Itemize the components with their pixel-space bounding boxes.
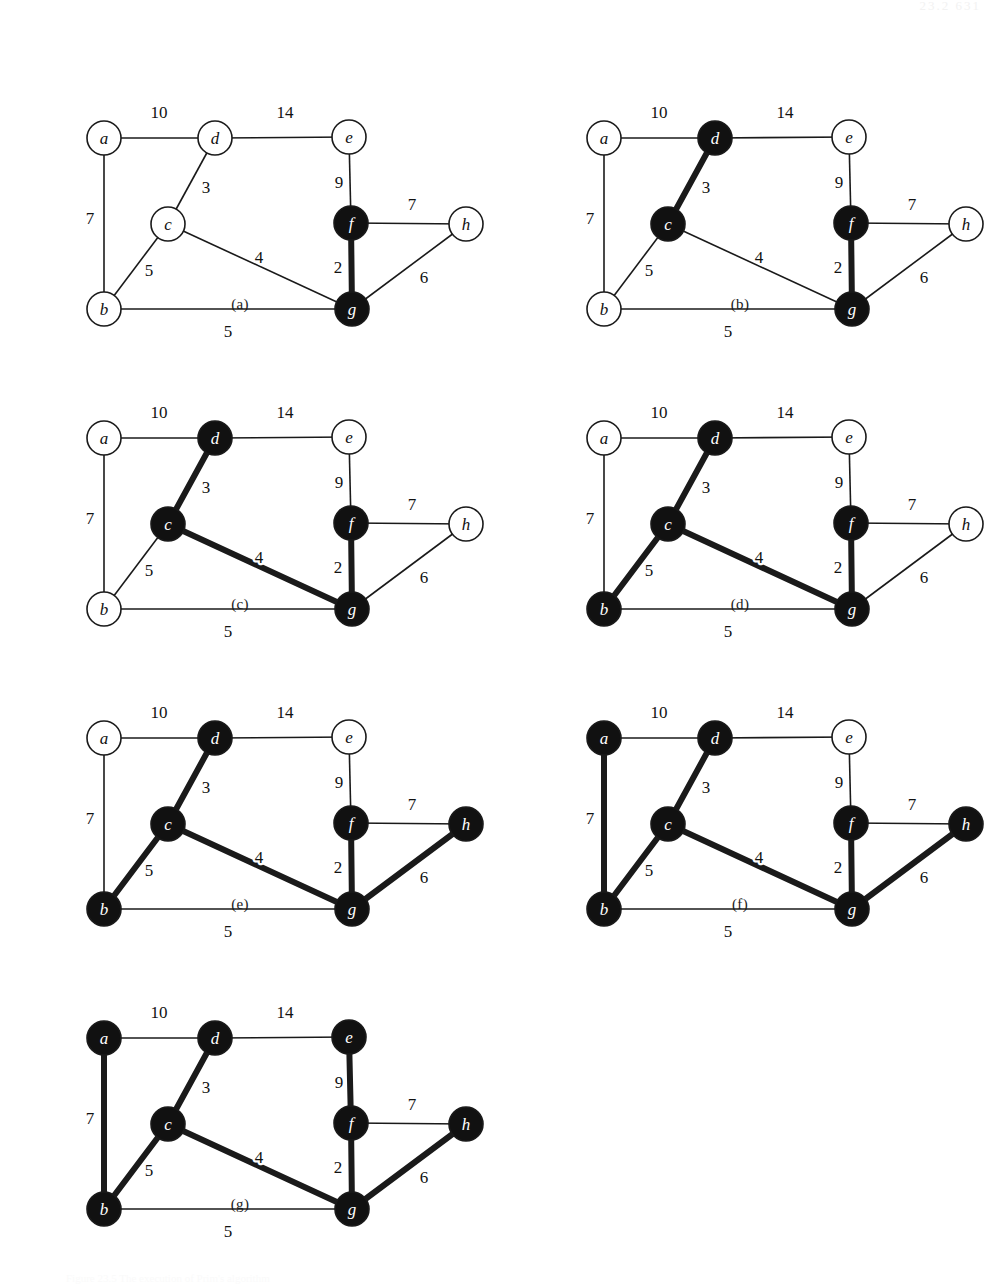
graph-node-label-g: g [848,300,857,319]
graph-edge-d-e [715,737,849,738]
graph-edge-g-h [352,1124,466,1209]
edge-weight-b-g: 5 [724,622,733,641]
edge-weight-b-g: 5 [224,322,233,341]
graph-node-label-b: b [100,600,109,619]
graph-node-label-h: h [462,515,471,534]
edge-weight-f-h: 7 [408,495,417,514]
panel-caption-d: (d) [710,596,770,613]
edge-weight-f-h: 7 [408,795,417,814]
graph-node-label-c: c [664,215,672,234]
graph-node-label-d: d [711,729,720,748]
edge-weight-f-g: 2 [834,558,843,577]
graph-edge-g-h [852,824,966,909]
edge-weight-c-d: 3 [202,178,211,197]
graph-node-label-d: d [711,129,720,148]
panel-caption-b: (b) [710,296,770,313]
edge-weight-a-b: 7 [86,509,95,528]
panel-caption-e: (e) [210,896,270,913]
graph-node-label-a: a [100,429,109,448]
edge-weight-b-c: 5 [145,1161,154,1180]
edge-weight-b-g: 5 [724,922,733,941]
edge-weight-b-c: 5 [145,561,154,580]
graph-node-label-c: c [664,515,672,534]
edge-weight-f-g: 2 [334,258,343,277]
graph-node-label-c: c [664,815,672,834]
graph-node-label-a: a [600,129,609,148]
edge-weight-e-f: 9 [835,473,844,492]
edge-weight-g-h: 6 [920,868,929,887]
edge-weight-f-h: 7 [408,195,417,214]
graph-node-label-h: h [462,1115,471,1134]
edge-weight-b-c: 5 [645,861,654,880]
panel-caption-a: (a) [210,296,270,313]
edge-weight-c-g: 4 [755,848,764,867]
edge-weight-g-h: 6 [420,568,429,587]
graph-node-label-e: e [345,1028,353,1047]
edge-weight-d-e: 14 [277,103,295,122]
edge-weight-f-g: 2 [834,258,843,277]
edge-weight-f-h: 7 [908,195,917,214]
edge-weight-e-f: 9 [835,773,844,792]
graph-node-label-b: b [600,900,609,919]
graph-node-label-c: c [164,515,172,534]
graph-edge-g-h [852,524,966,609]
graph-node-label-g: g [848,900,857,919]
edge-weight-g-h: 6 [420,868,429,887]
graph-edge-d-e [215,1037,349,1038]
edge-weight-a-b: 7 [86,209,95,228]
graph-edge-g-h [352,224,466,309]
edge-weight-c-d: 3 [702,478,711,497]
graph-node-label-h: h [962,515,971,534]
edge-weight-c-d: 3 [202,478,211,497]
edge-weight-d-e: 14 [277,1003,295,1022]
graph-node-label-d: d [211,429,220,448]
graph-edge-d-e [715,137,849,138]
graph-node-label-d: d [211,129,220,148]
edge-weight-a-d: 10 [651,403,668,422]
graph-edge-d-e [215,737,349,738]
edge-weight-b-g: 5 [224,922,233,941]
edge-weight-f-h: 7 [908,495,917,514]
edge-weight-c-g: 4 [255,848,264,867]
graph-node-label-h: h [462,215,471,234]
graph-node-label-a: a [600,429,609,448]
edge-weight-a-d: 10 [651,703,668,722]
edge-weight-b-c: 5 [145,261,154,280]
graph-node-label-d: d [211,729,220,748]
edge-weight-b-g: 5 [224,1222,233,1241]
graph-node-label-h: h [962,815,971,834]
graph-node-label-e: e [345,728,353,747]
edge-weight-f-g: 2 [334,1158,343,1177]
running-head: 23.2 631 [920,0,982,14]
edge-weight-c-d: 3 [202,778,211,797]
graph-node-label-e: e [345,428,353,447]
panel-caption-c: (c) [210,596,270,613]
edge-weight-a-d: 10 [151,1003,168,1022]
graph-node-label-e: e [845,128,853,147]
edge-weight-f-g: 2 [334,858,343,877]
edge-weight-g-h: 6 [420,268,429,287]
figure-sheet: 23.2 631 Figure 23.5 The execution of Pr… [0,0,1003,1286]
graph-node-label-b: b [100,1200,109,1219]
graph-node-label-b: b [100,300,109,319]
graph-node-label-e: e [845,428,853,447]
graph-node-label-d: d [211,1029,220,1048]
edge-weight-a-b: 7 [86,1109,95,1128]
edge-weight-c-g: 4 [255,248,264,267]
graph-node-label-b: b [100,900,109,919]
graph-node-label-g: g [848,600,857,619]
graph-node-label-g: g [348,900,357,919]
edge-weight-f-h: 7 [908,795,917,814]
graph-node-label-b: b [600,600,609,619]
edge-weight-e-f: 9 [335,473,344,492]
edge-weight-e-f: 9 [335,1073,344,1092]
edge-weight-c-d: 3 [202,1078,211,1097]
edge-weight-d-e: 14 [777,703,795,722]
edge-weight-c-g: 4 [755,548,764,567]
edge-weight-c-g: 4 [755,248,764,267]
edge-weight-e-f: 9 [335,173,344,192]
graph-node-label-c: c [164,815,172,834]
edge-weight-f-h: 7 [408,1095,417,1114]
edge-weight-b-c: 5 [645,261,654,280]
graph-node-label-a: a [600,729,609,748]
